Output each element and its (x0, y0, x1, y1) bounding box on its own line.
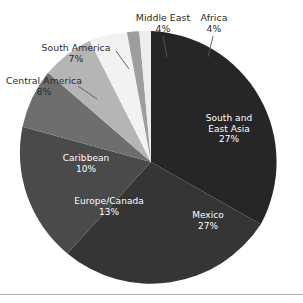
pie-label-south-and-east-asia-value: 27% (190, 134, 268, 145)
pie-label-europe-canada: Europe/Canada 13% (60, 196, 158, 217)
pie-label-south-and-east-asia-text-line2: East Asia (190, 124, 268, 135)
pie-label-caribbean-value: 10% (47, 164, 125, 175)
pie-label-south-america: South America 7% (38, 42, 114, 64)
pie-label-south-and-east-asia-text-line1: South and (206, 113, 252, 123)
pie-label-south-and-east-asia: South and East Asia 27% (190, 113, 268, 145)
figure-bottom-rule (0, 294, 303, 295)
pie-label-mexico: Mexico 27% (173, 210, 243, 231)
pie-label-europe-canada-value: 13% (60, 207, 158, 218)
pie-label-middle-east-text: Middle East (136, 12, 190, 23)
pie-label-europe-canada-text: Europe/Canada (74, 196, 144, 206)
pie-label-africa: Africa 4% (188, 12, 240, 34)
pie-chart-figure: Middle East 4% Africa 4% South America 7… (0, 0, 303, 303)
pie-label-mexico-text: Mexico (192, 210, 224, 220)
pie-label-caribbean-text: Caribbean (63, 153, 110, 163)
pie-label-caribbean: Caribbean 10% (47, 153, 125, 174)
pie-label-africa-value: 4% (188, 23, 240, 34)
pie-label-africa-text: Africa (201, 12, 228, 23)
pie-label-central-america-value: 8% (4, 86, 84, 97)
pie-label-south-america-text: South America (42, 42, 111, 53)
pie-label-central-america-text: Central America (6, 75, 82, 86)
pie-label-mexico-value: 27% (173, 221, 243, 232)
pie-label-south-america-value: 7% (38, 53, 114, 64)
pie-label-central-america: Central America 8% (4, 75, 84, 97)
